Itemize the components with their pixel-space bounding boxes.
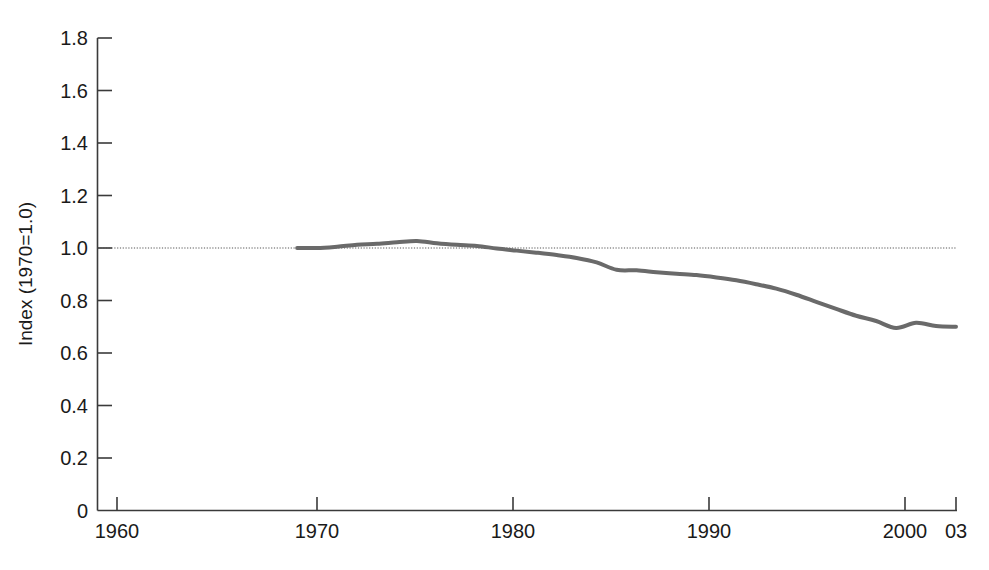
y-axis-labels: 1.8 1.6 1.4 1.2 1.0 0.8 0.6 0.4 0.2 0	[60, 27, 88, 522]
x-tick-label-1960: 1960	[95, 520, 140, 542]
y-tick-label-0: 0	[77, 500, 88, 522]
x-tick-label-1970: 1970	[295, 520, 340, 542]
y-tick-label-1_6: 1.6	[60, 80, 88, 102]
x-axis-labels: 1960 1970 1980 1990 2000 03	[95, 520, 967, 542]
y-tick-label-1_0: 1.0	[60, 237, 88, 259]
x-tick-label-1980: 1980	[491, 520, 536, 542]
y-tick-label-0_8: 0.8	[60, 290, 88, 312]
y-tick-label-1_4: 1.4	[60, 132, 88, 154]
x-tick-label-2003: 03	[945, 520, 967, 542]
x-tick-label-2000: 2000	[883, 520, 928, 542]
data-series-index	[297, 241, 956, 328]
y-tick-label-0_6: 0.6	[60, 342, 88, 364]
line-chart: Index (1970=1.0) 1.8 1.6 1.4 1.2 1.0 0.8…	[0, 0, 989, 570]
y-tick-label-1_8: 1.8	[60, 27, 88, 49]
y-tick-label-0_4: 0.4	[60, 395, 88, 417]
chart-figure: Index (1970=1.0) 1.8 1.6 1.4 1.2 1.0 0.8…	[0, 0, 989, 570]
x-axis-ticks	[117, 497, 956, 511]
y-tick-label-1_2: 1.2	[60, 185, 88, 207]
y-axis-title: Index (1970=1.0)	[15, 202, 36, 346]
x-tick-label-1990: 1990	[687, 520, 732, 542]
y-tick-label-0_2: 0.2	[60, 447, 88, 469]
